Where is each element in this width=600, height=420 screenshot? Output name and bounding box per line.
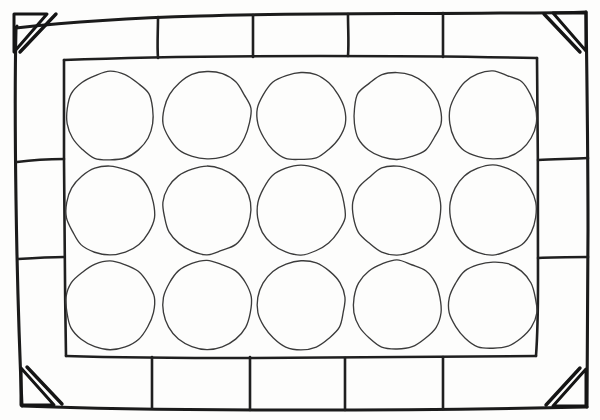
corner-triangle-bottom-right-outline [553,369,586,406]
outer-border-top-edge [16,12,586,28]
circle-motif [354,73,442,160]
corner-triangle-bottom-right-diagonal [546,368,580,405]
right-border-divider-1 [538,158,588,160]
left-border-strip [17,159,64,259]
corner-triangle-bottom-left-outline [21,368,54,405]
quilt-layout-drawing [0,0,600,420]
circle-motif [163,260,252,349]
circle-motif [67,71,154,160]
corner-triangle-top-right-outline [553,13,586,51]
circle-motif [257,261,345,350]
circle-motif [257,165,345,255]
corner-triangle-top-left-outline [14,14,47,52]
outer-border-bottom-edge [22,406,587,410]
inner-panel-top-edge [64,56,537,60]
circle-motif [163,166,251,255]
right-border-divider-2 [538,257,588,258]
circle-motif [163,71,252,158]
inner-panel-bottom-edge [66,356,536,358]
circle-motif [450,165,537,255]
circle-motif-grid [66,71,537,350]
outer-border-left-edge [15,28,22,406]
bottom-border-strip [152,357,443,410]
outer-border-right-edge [586,12,588,407]
circle-motif [353,260,441,349]
circle-motif [66,261,155,350]
corner-triangle-top-right-diagonal [544,14,580,52]
circle-motif [257,72,346,159]
circle-motif [448,262,537,348]
corner-triangle-bottom-left [21,367,62,405]
drawing-canvas [0,0,600,420]
right-border-strip [538,158,588,258]
left-border-divider-2 [18,257,64,259]
corner-triangle-bottom-left-diagonal [27,367,62,404]
circle-motif [66,166,155,255]
corner-triangle-top-right [544,13,586,52]
circle-motif [449,71,536,159]
corner-triangle-top-left [14,14,56,52]
circle-motif [352,166,440,255]
corner-triangle-bottom-right [546,368,586,406]
corner-triangle-top-left-diagonal [20,14,56,52]
left-border-divider-1 [17,159,64,162]
inner-field-rectangle [64,56,538,358]
top-border-strip [158,13,443,58]
